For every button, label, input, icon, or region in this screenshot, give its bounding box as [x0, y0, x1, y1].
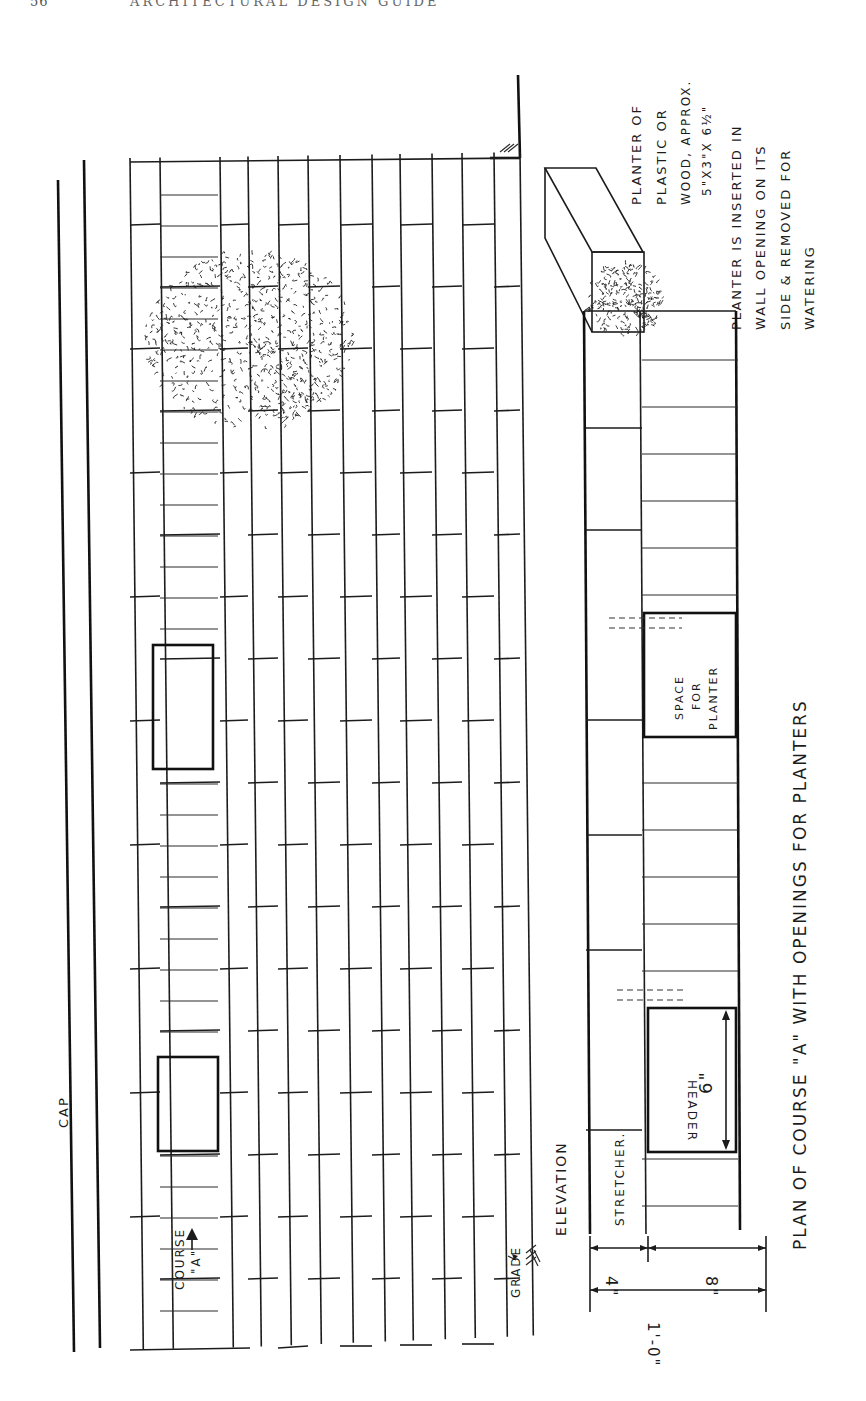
foliage-stroke — [290, 361, 292, 365]
foliage-stroke — [321, 392, 322, 394]
foliage-stroke — [266, 337, 270, 339]
foliage-stroke — [337, 368, 341, 370]
foliage-stroke — [172, 342, 177, 345]
head-joint — [340, 224, 372, 225]
foliage-stroke — [334, 333, 335, 334]
foliage-stroke — [163, 303, 165, 307]
foliage-stroke — [269, 251, 272, 254]
foliage-stroke — [153, 339, 157, 342]
foliage-stroke — [334, 353, 337, 355]
foliage-stroke — [221, 358, 226, 360]
head-joint — [220, 720, 248, 721]
space-label: SPACE — [673, 675, 686, 720]
foliage-stroke — [335, 309, 339, 310]
foliage-stroke — [152, 320, 154, 321]
foliage-stroke — [259, 339, 260, 341]
foliage-stroke — [327, 376, 330, 377]
foliage-stroke — [276, 393, 280, 395]
foliage-stroke — [614, 280, 615, 284]
foliage-stroke — [645, 282, 649, 285]
head-joint — [278, 472, 308, 473]
foliage-stroke — [173, 321, 175, 323]
head-joint — [372, 286, 400, 287]
foliage-stroke — [234, 282, 236, 283]
head-joint — [462, 224, 494, 225]
foliage-stroke — [227, 307, 228, 311]
foliage-stroke — [223, 340, 227, 341]
foliage-stroke — [651, 325, 654, 326]
foliage-stroke — [306, 395, 310, 397]
head-joint — [432, 410, 462, 411]
head-joint — [372, 1278, 400, 1279]
foliage-stroke — [622, 270, 624, 274]
foliage-stroke — [200, 370, 202, 374]
plan-title: PLAN OF COURSE "A" WITH OPENINGS FOR PLA… — [790, 699, 810, 1250]
foliage-stroke — [262, 395, 264, 399]
space-for-planter — [644, 613, 736, 737]
foliage-stroke — [597, 318, 601, 322]
foliage-stroke — [275, 298, 278, 302]
foliage-stroke — [623, 292, 625, 295]
foliage-stroke — [603, 301, 606, 302]
foliage-stroke — [232, 270, 234, 272]
foliage-stroke — [237, 266, 239, 269]
foliage-stroke — [180, 361, 185, 363]
head-joint — [372, 534, 400, 535]
foliage-stroke — [333, 388, 336, 390]
foliage-stroke — [314, 350, 317, 352]
head-joint — [278, 348, 308, 349]
head-joint — [220, 1216, 248, 1217]
foliage-stroke — [303, 306, 304, 308]
foliage-stroke — [265, 426, 267, 429]
foliage-stroke — [288, 352, 289, 355]
brick-courses — [130, 152, 533, 1350]
foliage-stroke — [285, 390, 287, 393]
foliage-stroke — [275, 305, 278, 309]
foliage-stroke — [263, 342, 268, 344]
foliage-stroke — [227, 317, 231, 318]
foliage-stroke — [320, 323, 323, 325]
foliage-stroke — [641, 300, 642, 304]
foliage-stroke — [613, 299, 617, 300]
foliage-stroke — [192, 366, 196, 368]
foliage-stroke — [276, 340, 278, 344]
foliage-stroke — [156, 315, 159, 320]
head-joint — [160, 1030, 220, 1031]
foliage-stroke — [233, 386, 236, 388]
architectural-drawing: CAP COURSE "A" GRADE ELEVATION PLANTER O… — [0, 0, 866, 1401]
for-label: FOR — [690, 681, 703, 710]
foliage-stroke — [291, 357, 295, 358]
foliage-stroke — [154, 358, 156, 360]
foliage-stroke — [215, 305, 217, 308]
foliage-stroke — [280, 271, 284, 276]
foliage-stroke — [188, 302, 190, 303]
foliage-stroke — [291, 259, 294, 263]
foliage-stroke — [310, 300, 312, 303]
foliage-stroke — [337, 356, 341, 357]
planter-note-line: PLASTIC OR — [654, 108, 669, 205]
foliage-stroke — [160, 385, 162, 387]
foliage-stroke — [301, 329, 303, 332]
foliage-stroke — [240, 359, 241, 364]
foliage-stroke — [646, 301, 651, 303]
foliage-stroke — [163, 373, 164, 376]
foliage-stroke — [302, 350, 307, 354]
foliage-stroke — [257, 271, 259, 274]
plan-outer-edge — [584, 311, 590, 1234]
head-joint — [278, 596, 308, 597]
foliage-stroke — [215, 421, 217, 423]
head-joint — [278, 224, 308, 225]
head-joint — [340, 348, 372, 349]
foliage-stroke — [233, 327, 238, 328]
foliage-stroke — [607, 274, 611, 278]
course-line — [432, 154, 445, 1340]
cap-underside-line — [84, 160, 100, 1348]
head-joint — [160, 906, 220, 907]
foliage-stroke — [250, 260, 253, 262]
foliage-stroke — [625, 266, 628, 268]
foliage-stroke — [200, 355, 202, 360]
foliage-stroke — [146, 325, 147, 328]
foliage-stroke — [634, 289, 635, 293]
foliage-stroke — [164, 334, 167, 338]
cap-line — [58, 180, 74, 1352]
